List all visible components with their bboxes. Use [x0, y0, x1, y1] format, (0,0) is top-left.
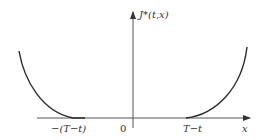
x-axis-label: x	[242, 124, 248, 134]
origin-label: 0	[120, 124, 126, 134]
right-curve	[186, 47, 247, 118]
right-tick-label: T−t	[183, 124, 202, 134]
diagram-canvas	[0, 0, 266, 140]
left-curve	[19, 51, 85, 118]
value-function-diagram: J*(t,x) x 0 −(T−t) T−t	[0, 0, 266, 140]
y-axis-label: J*(t,x)	[139, 10, 169, 20]
left-tick-label: −(T−t)	[51, 124, 86, 134]
